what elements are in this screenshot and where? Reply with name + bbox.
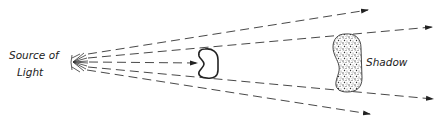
- ray-bottom: [87, 70, 370, 114]
- source-label-line2: Light: [17, 66, 44, 78]
- ray-center: [89, 62, 197, 63]
- shadow-shape: [333, 34, 362, 92]
- shadow-label: Shadow: [366, 56, 408, 68]
- shadow-diagram: Source of Light Shadow: [0, 0, 442, 126]
- ray-upper-tangent: [88, 27, 432, 58]
- ray-lower-tangent: [88, 67, 433, 99]
- opaque-object: [199, 49, 218, 78]
- ray-top: [88, 10, 368, 54]
- source-label-line1: Source of: [9, 49, 61, 61]
- light-source-icon: [71, 53, 88, 72]
